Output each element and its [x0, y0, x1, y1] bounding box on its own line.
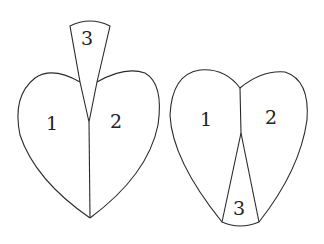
right-heart-figure: 1 2 3 — [170, 70, 307, 226]
right-lobe-region-2 — [90, 71, 159, 218]
left-label-3: 3 — [81, 27, 93, 49]
left-label-2: 2 — [110, 110, 122, 132]
diagram-canvas: 1 2 3 1 2 3 — [0, 0, 324, 244]
center-divider — [240, 88, 241, 133]
left-heart-figure: 1 2 3 — [18, 21, 160, 218]
center-divider — [89, 122, 90, 218]
left-label-1: 1 — [46, 112, 58, 134]
right-label-3: 3 — [233, 197, 245, 219]
right-label-2: 2 — [265, 106, 277, 128]
right-label-1: 1 — [200, 108, 212, 130]
left-lobe-region-1 — [18, 73, 90, 218]
